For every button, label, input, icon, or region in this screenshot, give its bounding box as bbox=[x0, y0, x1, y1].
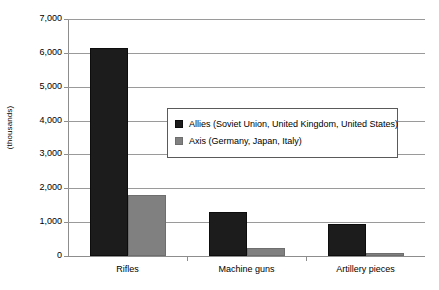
bar-axis bbox=[247, 248, 285, 256]
category-separator bbox=[187, 256, 188, 261]
y-axis-tick bbox=[64, 19, 68, 20]
y-axis-label: 5,000 bbox=[8, 82, 62, 91]
y-axis-label: 2,000 bbox=[8, 183, 62, 192]
category-label: Artillery pieces bbox=[306, 264, 425, 274]
y-axis-tick bbox=[64, 188, 68, 189]
legend-swatch-axis-icon bbox=[175, 137, 183, 145]
y-axis-label: 6,000 bbox=[8, 48, 62, 57]
category-label: Machine guns bbox=[187, 264, 306, 274]
y-axis-tick bbox=[64, 53, 68, 54]
y-axis-label: 4,000 bbox=[8, 116, 62, 125]
y-axis-tick bbox=[64, 154, 68, 155]
legend-swatch-allies-icon bbox=[175, 120, 183, 128]
y-axis-label: 3,000 bbox=[8, 149, 62, 158]
category-separator bbox=[306, 256, 307, 261]
bar-axis bbox=[366, 253, 404, 256]
x-axis-line bbox=[68, 256, 425, 257]
y-axis-label: 1,000 bbox=[8, 217, 62, 226]
bar-chart: (thousands) 01,0002,0003,0004,0005,0006,… bbox=[0, 0, 439, 290]
y-axis-label: 7,000 bbox=[8, 14, 62, 23]
bar-allies bbox=[90, 48, 128, 256]
bar-allies bbox=[209, 212, 247, 256]
y-axis-tick bbox=[64, 87, 68, 88]
y-axis-tick bbox=[64, 121, 68, 122]
chart-legend: Allies (Soviet Union, United Kingdom, Un… bbox=[167, 108, 398, 158]
legend-label-axis: Axis (Germany, Japan, Italy) bbox=[189, 136, 302, 146]
y-axis-tick bbox=[64, 222, 68, 223]
bar-axis bbox=[128, 195, 166, 256]
legend-label-allies: Allies (Soviet Union, United Kingdom, Un… bbox=[189, 119, 398, 129]
y-axis-tick bbox=[64, 256, 68, 257]
legend-item-allies: Allies (Soviet Union, United Kingdom, Un… bbox=[175, 115, 390, 132]
gridline bbox=[68, 19, 425, 20]
legend-item-axis: Axis (Germany, Japan, Italy) bbox=[175, 132, 390, 149]
y-axis-label: 0 bbox=[8, 251, 62, 260]
category-label: Rifles bbox=[68, 264, 187, 274]
bar-allies bbox=[328, 224, 366, 256]
